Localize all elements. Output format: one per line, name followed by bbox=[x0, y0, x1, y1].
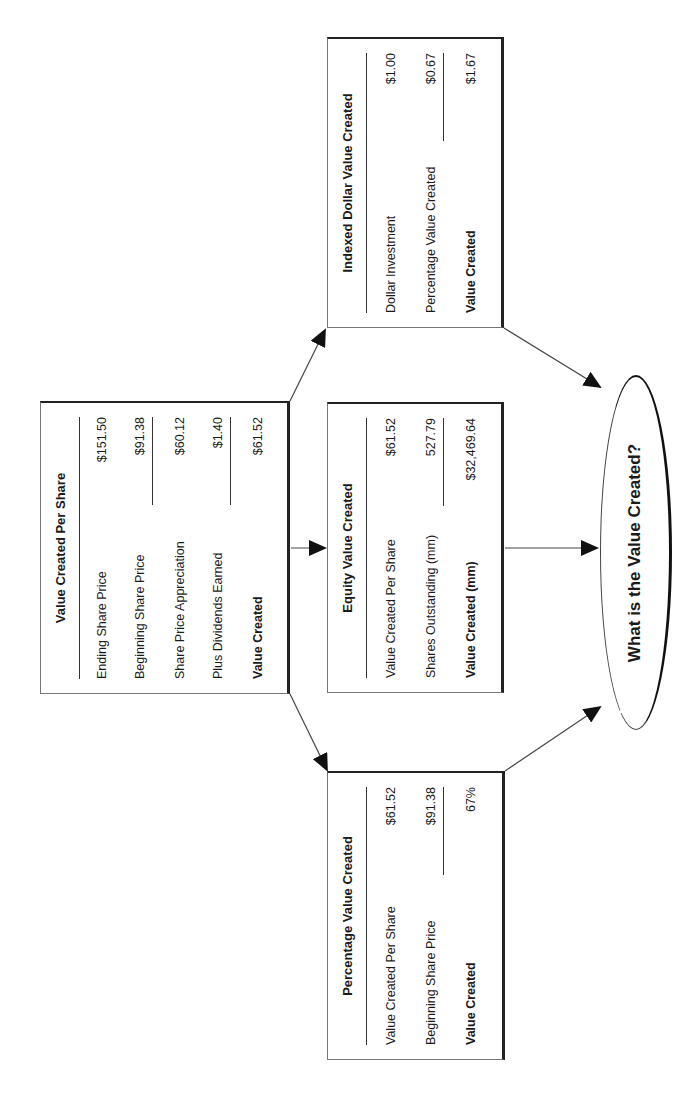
row-value-created: Value Created $1.67 bbox=[464, 53, 482, 313]
row-label: Shares Outstanding (mm) bbox=[424, 535, 438, 678]
row-dollar-investment: Dollar Investment $1.00 bbox=[384, 53, 402, 313]
arrow-to-indexed bbox=[290, 330, 325, 401]
row-value-created-per-share: Value Created Per Share $61.52 bbox=[384, 787, 402, 1045]
box-title: Percentage Value Created bbox=[340, 773, 355, 1059]
row-label: Share Price Appreciation bbox=[173, 541, 187, 679]
row-label: Ending Share Price bbox=[95, 571, 109, 679]
row-value: $1.67 bbox=[464, 53, 478, 84]
row-label: Value Created bbox=[251, 596, 265, 679]
row-label: Value Created Per Share bbox=[384, 539, 398, 678]
row-label: Value Created bbox=[464, 230, 478, 313]
box-title: Indexed Dollar Value Created bbox=[340, 39, 355, 327]
row-label: Value Created bbox=[464, 962, 478, 1045]
value-created-question-ellipse: What is the Value Created? bbox=[600, 375, 672, 730]
row-label: Percentage Value Created bbox=[424, 167, 438, 313]
row-value: $151.50 bbox=[95, 417, 109, 462]
row-beginning-share-price: Beginning Share Price $91.38 bbox=[424, 787, 442, 1045]
row-label: Plus Dividends Earned bbox=[211, 553, 225, 679]
row-value: 67% bbox=[464, 787, 478, 812]
equity-value-created-box: Equity Value Created Value Created Per S… bbox=[327, 402, 504, 693]
row-value: $60.12 bbox=[173, 417, 187, 455]
row-value: $91.38 bbox=[133, 417, 147, 455]
row-ending-share-price: Ending Share Price $151.50 bbox=[95, 417, 113, 679]
indexed-dollar-value-created-box: Indexed Dollar Value Created Dollar Inve… bbox=[327, 37, 504, 328]
row-value-created: Value Created 67% bbox=[464, 787, 482, 1045]
row-value: $1.00 bbox=[384, 53, 398, 84]
arrow-to-percentage bbox=[290, 694, 327, 770]
arrow-percentage-to-ellipse bbox=[505, 707, 600, 771]
row-label: Dollar Investment bbox=[384, 216, 398, 313]
row-value-created-per-share: Value Created Per Share $61.52 bbox=[384, 418, 402, 678]
title-divider bbox=[366, 787, 367, 1045]
value-created-per-share-box: Value Created Per Share Ending Share Pri… bbox=[40, 401, 290, 694]
row-value: $1.40 bbox=[211, 417, 225, 448]
row-value-created-mm: Value Created (mm) $32,469.64 bbox=[464, 418, 482, 678]
percentage-value-created-box: Percentage Value Created Value Created P… bbox=[327, 771, 505, 1060]
box-title: Equity Value Created bbox=[340, 404, 355, 692]
row-label: Beginning Share Price bbox=[424, 921, 438, 1045]
box-title: Value Created Per Share bbox=[53, 403, 68, 693]
row-value: 527.79 bbox=[424, 418, 438, 456]
row-value: $91.38 bbox=[424, 787, 438, 825]
row-percentage-value-created: Percentage Value Created $0.67 bbox=[424, 53, 442, 313]
row-label: Value Created Per Share bbox=[384, 906, 398, 1045]
row-plus-dividends-earned: Plus Dividends Earned $1.40 bbox=[211, 417, 229, 679]
row-label: Value Created (mm) bbox=[464, 561, 478, 678]
row-value: $0.67 bbox=[424, 53, 438, 84]
ellipse-label: What is the Value Created? bbox=[625, 444, 645, 662]
row-beginning-share-price: Beginning Share Price $91.38 bbox=[133, 417, 151, 679]
row-shares-outstanding: Shares Outstanding (mm) 527.79 bbox=[424, 418, 442, 678]
diagram-stage: Value Created Per Share Ending Share Pri… bbox=[0, 0, 695, 1095]
row-label: Beginning Share Price bbox=[133, 555, 147, 679]
row-value: $61.52 bbox=[384, 418, 398, 456]
title-divider bbox=[366, 53, 367, 313]
row-share-price-appreciation: Share Price Appreciation $60.12 bbox=[173, 417, 191, 679]
title-divider bbox=[366, 418, 367, 678]
row-value: $32,469.64 bbox=[464, 418, 478, 481]
row-value: $61.52 bbox=[251, 417, 265, 455]
title-divider bbox=[79, 417, 80, 679]
row-value: $61.52 bbox=[384, 787, 398, 825]
arrow-indexed-to-ellipse bbox=[504, 328, 600, 387]
row-value-created: Value Created $61.52 bbox=[251, 417, 269, 679]
